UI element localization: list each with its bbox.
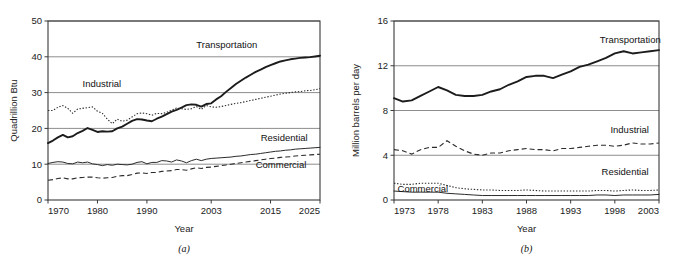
figure-container: 01020304050197019801990200320152025Trans… [0, 0, 682, 261]
xtick-label-1978: 1978 [428, 205, 449, 216]
ytick-label-8: 8 [383, 105, 388, 116]
xtick-label-2003: 2003 [638, 205, 659, 216]
line-chart-b: 04812161973197819831988199319982003Trans… [341, 0, 682, 261]
xtick-label-1998: 1998 [604, 205, 625, 216]
panel-caption: (a) [178, 243, 190, 255]
ytick-label-0: 0 [383, 194, 388, 205]
xtick-label-1990: 1990 [136, 205, 157, 216]
series-label-residential: Residential [602, 166, 649, 177]
series-label-commercial: Commercial [256, 159, 307, 170]
series-label-transportation: Transportation [196, 39, 257, 50]
line-chart-a: 01020304050197019801990200320152025Trans… [0, 0, 341, 261]
ytick-label-50: 50 [31, 15, 42, 26]
series-line-transportation [48, 56, 320, 143]
xtick-label-1993: 1993 [560, 205, 581, 216]
series-label-commercial: Commercial [398, 183, 449, 194]
y-axis-title: Quadrillion Btu [8, 79, 19, 141]
series-label-industrial: Industrial [610, 124, 649, 135]
ytick-label-20: 20 [31, 123, 42, 134]
series-label-transportation: Transportation [600, 34, 661, 45]
series-line-industrial [394, 141, 659, 156]
xtick-label-1988: 1988 [516, 205, 537, 216]
xtick-label-2003: 2003 [201, 205, 222, 216]
plot-area-border [48, 21, 320, 200]
xtick-label-1973: 1973 [394, 205, 415, 216]
ytick-label-10: 10 [31, 159, 42, 170]
ytick-label-40: 40 [31, 51, 42, 62]
x-axis-title: Year [517, 223, 536, 234]
xtick-label-1983: 1983 [472, 205, 493, 216]
series-label-industrial: Industrial [83, 78, 122, 89]
x-axis-title: Year [174, 223, 193, 234]
ytick-label-12: 12 [377, 60, 388, 71]
ytick-label-4: 4 [383, 150, 388, 161]
ytick-label-16: 16 [377, 15, 388, 26]
xtick-label-1980: 1980 [87, 205, 108, 216]
xtick-label-2025: 2025 [299, 205, 320, 216]
chart-panel-a: 01020304050197019801990200320152025Trans… [0, 0, 341, 261]
ytick-label-0: 0 [37, 194, 42, 205]
panel-caption: (b) [521, 243, 533, 255]
xtick-label-1970: 1970 [48, 205, 69, 216]
series-line-transportation [394, 50, 659, 101]
xtick-label-2015: 2015 [260, 205, 281, 216]
series-label-residential: Residential [261, 132, 308, 143]
ytick-label-30: 30 [31, 87, 42, 98]
chart-panel-b: 04812161973197819831988199319982003Trans… [341, 0, 682, 261]
y-axis-title: Million barrels per day [350, 64, 361, 157]
